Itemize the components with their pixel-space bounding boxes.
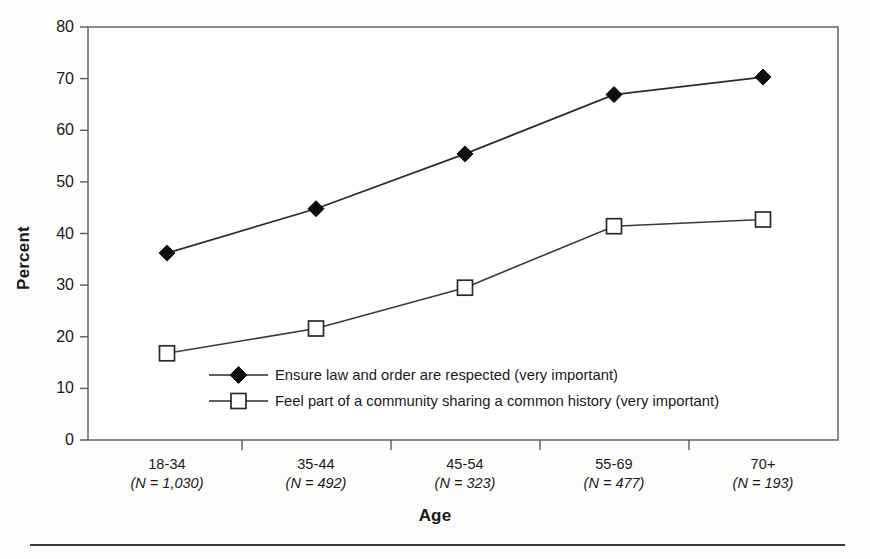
ytick-label-70: 70 (28, 71, 74, 87)
xtick-group-35-44: 35-44 (N = 492) (241, 455, 391, 493)
xtick-label-range: 55-69 (539, 455, 689, 474)
xtick-label-range: 45-54 (390, 455, 540, 474)
ytick-label-30: 30 (28, 277, 74, 293)
y-axis-ticks (80, 27, 88, 440)
y-axis-title: Percent (14, 198, 34, 318)
ytick-label-80: 80 (28, 19, 74, 35)
xtick-group-18-34: 18-34 (N = 1,030) (92, 455, 242, 493)
ytick-label-50: 50 (28, 174, 74, 190)
xtick-label-n: (N = 1,030) (92, 474, 242, 493)
xtick-group-45-54: 45-54 (N = 323) (390, 455, 540, 493)
ytick-label-60: 60 (28, 122, 74, 138)
legend-label-community-history: Feel part of a community sharing a commo… (275, 393, 719, 409)
marker-open-square (160, 346, 175, 361)
line-chart-figure: 0 10 20 30 40 50 60 70 80 Percent 18-34 … (0, 0, 870, 559)
ytick-label-0: 0 (28, 432, 74, 448)
xtick-label-range: 35-44 (241, 455, 391, 474)
legend-label-law-and-order: Ensure law and order are respected (very… (275, 367, 618, 383)
xtick-label-range: 18-34 (92, 455, 242, 474)
marker-open-square (458, 280, 473, 295)
ytick-label-10: 10 (28, 380, 74, 396)
xtick-label-range: 70+ (688, 455, 838, 474)
footer-divider (30, 544, 845, 546)
xtick-label-n: (N = 477) (539, 474, 689, 493)
xtick-label-n: (N = 323) (390, 474, 540, 493)
xtick-label-n: (N = 193) (688, 474, 838, 493)
x-axis-ticks (242, 440, 689, 450)
xtick-group-70-plus: 70+ (N = 193) (688, 455, 838, 493)
xtick-label-n: (N = 492) (241, 474, 391, 493)
marker-open-square (309, 321, 324, 336)
ytick-label-20: 20 (28, 329, 74, 345)
xtick-group-55-69: 55-69 (N = 477) (539, 455, 689, 493)
ytick-label-40: 40 (28, 226, 74, 242)
marker-open-square (756, 212, 771, 227)
legend-marker-open-square (231, 394, 246, 409)
x-axis-title: Age (0, 506, 870, 526)
marker-open-square (607, 219, 622, 234)
